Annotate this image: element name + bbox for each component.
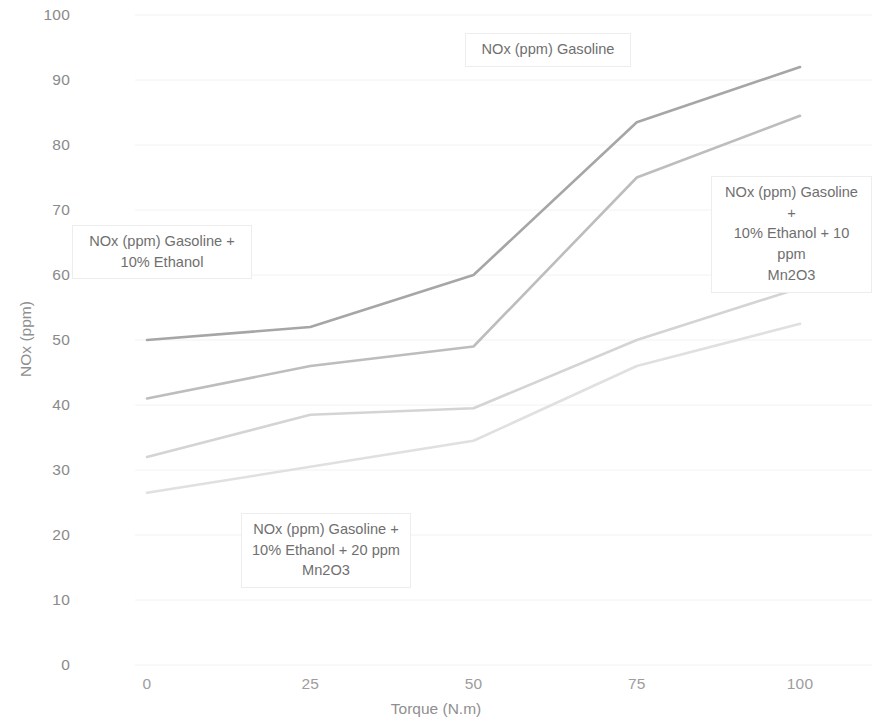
series-label-gasoline-10-ethanol: NOx (ppm) Gasoline + 10% Ethanol	[72, 225, 252, 279]
x-axis-tick-50: 50	[439, 676, 509, 692]
x-axis-tick-75: 75	[602, 676, 672, 692]
x-axis-tick-0: 0	[112, 676, 182, 692]
series-line-3	[147, 288, 800, 457]
y-axis-tick-90: 90	[12, 72, 70, 88]
x-axis-tick-25: 25	[275, 676, 345, 692]
y-axis-tick-80: 80	[12, 137, 70, 153]
y-axis-tick-10: 10	[12, 592, 70, 608]
series-label-gasoline-10-ethanol-20ppm-mn2o3: NOx (ppm) Gasoline + 10% Ethanol + 20 pp…	[241, 513, 411, 588]
y-axis-tick-20: 20	[12, 527, 70, 543]
y-axis-title: NOx (ppm)	[17, 269, 35, 409]
series-lines	[147, 67, 800, 493]
series-line-1	[147, 67, 800, 340]
series-label-gasoline-10-ethanol-10ppm-mn2o3: NOx (ppm) Gasoline + 10% Ethanol + 10 pp…	[711, 176, 872, 293]
plot-area	[0, 0, 872, 726]
y-axis-tick-70: 70	[12, 202, 70, 218]
y-axis-tick-100: 100	[12, 7, 70, 23]
y-axis-tick-30: 30	[12, 462, 70, 478]
x-axis-title: Torque (N.m)	[0, 700, 872, 718]
series-label-gasoline: NOx (ppm) Gasoline	[465, 33, 631, 67]
y-axis-tick-0: 0	[12, 657, 70, 673]
x-axis-tick-100: 100	[765, 676, 835, 692]
nox-torque-line-chart: 0102030405060708090100 0255075100 Torque…	[0, 0, 872, 726]
